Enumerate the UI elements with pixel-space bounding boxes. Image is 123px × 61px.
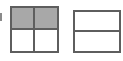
grid-cell (12, 8, 35, 30)
two-by-two-square-model (10, 6, 59, 53)
grid-cell (12, 30, 35, 52)
grid-cell (35, 8, 58, 30)
grid-cell (35, 30, 58, 52)
one-by-two-rectangle-model (73, 10, 121, 53)
figure-canvas (0, 0, 123, 61)
grid-cell (75, 12, 119, 32)
left-edge-scan-mark (0, 13, 2, 21)
grid-cell (75, 32, 119, 52)
